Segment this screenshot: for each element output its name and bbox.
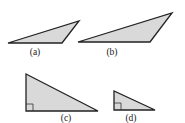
triangle-b: (b) [78,13,172,58]
triangle-d-label: (d) [125,113,136,123]
triangle-d: (d) [114,91,155,123]
triangles-figure: (a) (b) (c) (d) [0,0,185,123]
triangle-a-shape [8,21,79,43]
triangle-c-shape [26,74,98,111]
triangle-b-shape [78,13,172,42]
triangle-b-label: (b) [106,47,117,58]
triangle-c-label: (c) [61,113,72,123]
triangle-c: (c) [26,74,98,123]
triangle-d-shape [114,91,155,110]
triangle-a-label: (a) [30,47,41,58]
figure-svg: (a) (b) (c) (d) [0,0,185,123]
triangle-a: (a) [8,21,79,58]
